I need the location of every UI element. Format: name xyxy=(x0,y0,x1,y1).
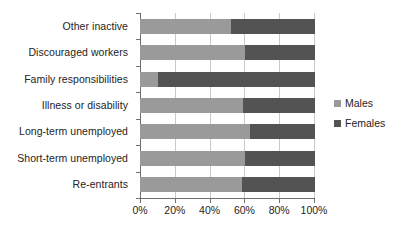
bar-track xyxy=(140,98,315,113)
y-axis-tick-5: Short-term unemployed xyxy=(0,145,134,171)
legend-swatch-females xyxy=(334,120,341,127)
bar-series-container xyxy=(140,13,315,198)
y-axis-tick-label: Illness or disability xyxy=(42,100,128,111)
bar-segment-males[interactable] xyxy=(140,45,245,60)
legend-item-males[interactable]: Males xyxy=(334,98,398,109)
bar-track xyxy=(140,45,315,60)
bar-row xyxy=(140,92,315,118)
x-tick-mark-80 xyxy=(279,199,280,203)
x-axis-labels: 0%20%40%60%80%100% xyxy=(140,204,315,220)
y-axis-tick-label: Other inactive xyxy=(63,21,128,32)
x-tick-mark-60 xyxy=(244,199,245,203)
y-axis-tick-label: Family responsibilities xyxy=(24,74,128,85)
bar-row xyxy=(140,13,315,39)
bar-row xyxy=(140,66,315,92)
legend-label-females: Females xyxy=(345,118,385,129)
bar-segment-males[interactable] xyxy=(140,124,250,139)
x-tick-label: 40% xyxy=(199,204,220,216)
y-axis-tick-3: Illness or disability xyxy=(0,92,134,118)
bar-track xyxy=(140,151,315,166)
y-axis-tick-0: Other inactive xyxy=(0,13,134,39)
bar-segment-females[interactable] xyxy=(243,98,315,113)
y-axis-tick-1: Discouraged workers xyxy=(0,39,134,65)
bar-segment-females[interactable] xyxy=(242,177,316,192)
y-axis-labels: Other inactive Discouraged workers Famil… xyxy=(0,13,134,198)
bar-track xyxy=(140,72,315,87)
bar-row xyxy=(140,39,315,65)
x-tick-mark-100 xyxy=(314,199,315,203)
bar-row xyxy=(140,145,315,171)
y-axis-tick-label: Long-term unemployed xyxy=(19,126,128,137)
y-axis-tick-label: Short-term unemployed xyxy=(17,153,128,164)
bar-segment-males[interactable] xyxy=(140,151,245,166)
x-tick-label: 20% xyxy=(164,204,185,216)
legend-item-females[interactable]: Females xyxy=(334,118,398,129)
x-tick-mark-0 xyxy=(140,199,141,203)
y-axis-tick-6: Re-entrants xyxy=(0,172,134,198)
bar-segment-males[interactable] xyxy=(140,72,158,87)
bar-segment-males[interactable] xyxy=(140,98,243,113)
bar-track xyxy=(140,124,315,139)
bar-segment-females[interactable] xyxy=(250,124,315,139)
y-axis-tick-2: Family responsibilities xyxy=(0,66,134,92)
bar-track xyxy=(140,19,315,34)
y-axis-tick-label: Re-entrants xyxy=(73,179,128,190)
bar-row xyxy=(140,119,315,145)
stacked-bar-chart: Other inactive Discouraged workers Famil… xyxy=(0,0,402,237)
legend-label-males: Males xyxy=(345,98,373,109)
x-tick-mark-20 xyxy=(175,199,176,203)
legend-swatch-males xyxy=(334,100,341,107)
bar-segment-females[interactable] xyxy=(245,45,315,60)
x-tick-label: 60% xyxy=(234,204,255,216)
x-tick-label: 80% xyxy=(269,204,290,216)
bar-segment-males[interactable] xyxy=(140,19,231,34)
bar-track xyxy=(140,177,315,192)
bar-segment-females[interactable] xyxy=(158,72,316,87)
legend: Males Females xyxy=(334,98,398,138)
bar-segment-females[interactable] xyxy=(245,151,315,166)
x-tick-mark-40 xyxy=(210,199,211,203)
y-axis-tick-label: Discouraged workers xyxy=(28,47,128,58)
plot-area xyxy=(140,13,315,198)
bar-row xyxy=(140,172,315,198)
bar-segment-males[interactable] xyxy=(140,177,242,192)
x-tick-label: 100% xyxy=(301,204,328,216)
y-axis-tick-4: Long-term unemployed xyxy=(0,119,134,145)
x-tick-label: 0% xyxy=(132,204,147,216)
bar-segment-females[interactable] xyxy=(231,19,315,34)
x-axis-line xyxy=(140,198,315,199)
